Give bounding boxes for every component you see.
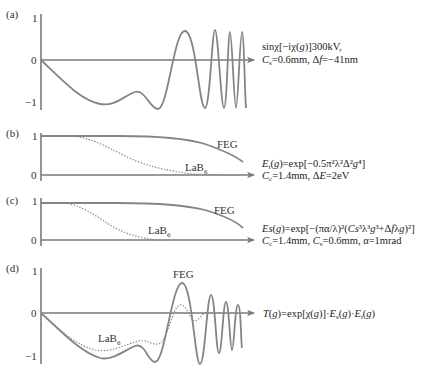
- panel-c-tick-1: 1: [32, 195, 38, 207]
- panel-d-formula: T(g)=exp[χ(g)]·Es(g)·Et(g): [263, 308, 376, 321]
- panel-a: (a) 1 0 −1: [6, 8, 254, 110]
- panel-b-feg-label: FEG: [217, 138, 238, 150]
- panel-c-tick-0: 0: [31, 234, 37, 246]
- panel-a-sinchi-curve: [41, 30, 246, 109]
- panel-c: (c) 1 0 FEG LaB6 Es(g)=exp[−(πα/λ)²(Cs³λ…: [6, 194, 415, 248]
- panel-c-formula-line2: Cc=1.4mm, Cs=0.6mm, α=1mrad: [262, 235, 402, 248]
- panel-c-feg-curve: [41, 203, 243, 228]
- panel-d-lab6-curve: [41, 305, 206, 351]
- panel-d-lab6-label: LaB6: [98, 332, 121, 347]
- panel-a-tick-neg1: −1: [25, 96, 37, 108]
- panel-d-tick-neg1: −1: [25, 350, 37, 362]
- panel-d-label: (d): [6, 262, 19, 275]
- panel-a-tick-1: 1: [32, 12, 38, 24]
- panel-b-tick-1: 1: [32, 130, 38, 142]
- panel-d-feg-curve: [41, 283, 242, 364]
- panel-b-feg-curve: [41, 136, 243, 162]
- panel-d-tick-0: 0: [31, 307, 37, 319]
- panel-c-formula-line1: Es(g)=exp[−(πα/λ)²(Cs³λ³g³+Δfλg)²]: [261, 223, 415, 235]
- panel-d: (d) 1 0 −1 FEG LaB6 T(g)=exp[χ(g)]·Es(g)…: [6, 262, 376, 364]
- panel-d-feg-label: FEG: [173, 268, 194, 280]
- panel-c-lab6-label: LaB6: [148, 224, 171, 239]
- figure-canvas: (a) 1 0 −1 (b) 1 0 FEG LaB6 Et(g)=exp[−0…: [0, 0, 441, 371]
- panel-b-formula-line2: Cc=1.4mm, ΔE=2eV: [262, 170, 350, 183]
- panel-b-lab6-curve: [41, 136, 240, 175]
- panel-a-tick-0: 0: [31, 54, 37, 66]
- panel-c-label: (c): [6, 194, 19, 207]
- panel-b-label: (b): [6, 127, 19, 140]
- panel-c-feg-label: FEG: [214, 204, 235, 216]
- panel-a-label: (a): [6, 8, 19, 21]
- panel-d-tick-1: 1: [32, 265, 38, 277]
- panel-a-formula-line2: Cs=0.6mm, Δf=−41nm: [262, 54, 358, 67]
- panel-b: (b) 1 0 FEG LaB6 Et(g)=exp[−0.5π²λ²Δ²g⁴]…: [6, 127, 365, 183]
- panel-a-formula-line1: sinχ[−iχ(g)]300kV,: [262, 41, 342, 53]
- panel-b-tick-0: 0: [31, 169, 37, 181]
